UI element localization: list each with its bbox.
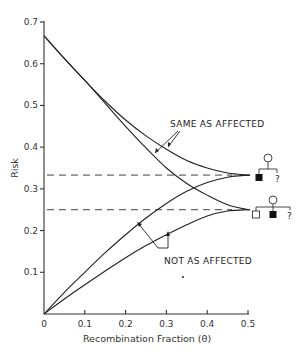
x-tick-label: 0.1: [78, 319, 92, 329]
unaffected-square-icon: [253, 211, 260, 218]
affected-square-icon: [270, 211, 277, 218]
y-tick-label: 0.2: [24, 226, 38, 236]
x-tick-label: 0.3: [159, 319, 173, 329]
annotation-not-as-affected: NOT AS AFFECTED: [164, 256, 252, 266]
x-tick-label: 0.4: [200, 319, 215, 329]
y-tick-label: 0.5: [24, 100, 38, 110]
x-tick-label: 0.5: [241, 319, 255, 329]
x-axis-title: Recombination Fraction (θ): [83, 333, 211, 344]
risk-curve: [44, 36, 250, 175]
pedigree-not: ?: [253, 196, 293, 221]
axes: [44, 21, 249, 314]
unknown-child: ?: [275, 174, 280, 184]
x-ticks: 00.10.20.30.40.5: [41, 310, 255, 329]
reference-lines: [47, 175, 232, 210]
risk-chart: 0.10.20.30.40.50.60.7 00.10.20.30.40.5 R…: [0, 0, 304, 354]
unknown-child: ?: [287, 211, 292, 221]
mother-circle-icon: [264, 154, 272, 162]
y-tick-label: 0.1: [24, 267, 38, 277]
y-ticks: 0.10.20.30.40.50.60.7: [24, 17, 44, 277]
y-tick-label: 0.3: [24, 184, 38, 194]
y-tick-label: 0.7: [24, 17, 38, 27]
y-tick-label: 0.4: [24, 142, 39, 152]
pedigree-same: ?: [256, 154, 281, 184]
y-tick-label: 0.6: [24, 59, 39, 69]
annotation-same-as-affected: SAME AS AFFECTED: [170, 119, 264, 129]
affected-square-icon: [256, 174, 263, 181]
y-axis-title: Risk: [9, 158, 20, 178]
x-tick-label: 0.2: [118, 319, 132, 329]
mother-circle-icon: [269, 196, 277, 204]
x-tick-label: 0: [41, 319, 47, 329]
speck: [182, 276, 184, 278]
